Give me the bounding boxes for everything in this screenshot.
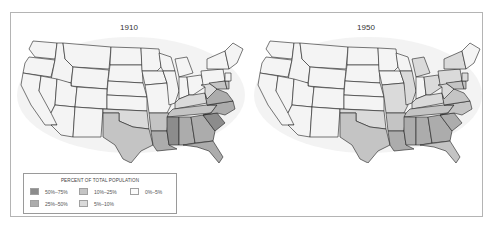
legend-label: 5%–10% (94, 201, 114, 207)
state-mo (145, 83, 171, 113)
state-wy (308, 67, 346, 89)
map-title-1950: 1950 (248, 23, 484, 32)
figure-frame: 1910 1950 Percent of Total Population 50… (10, 12, 483, 217)
legend-label: 25%–50% (45, 201, 68, 207)
state-mo (382, 83, 408, 113)
map-panel-1950: 1950 (248, 13, 484, 163)
legend-label: 0%–5% (145, 189, 162, 195)
legend-label: 10%–25% (94, 189, 117, 195)
state-wa (29, 41, 57, 59)
state-nm (310, 107, 340, 137)
state-ne (344, 81, 384, 97)
state-sd (108, 65, 143, 83)
legend-swatch (79, 200, 88, 207)
state-co (75, 87, 107, 109)
state-ks (344, 95, 384, 111)
state-co (312, 87, 344, 109)
state-fl (183, 141, 223, 163)
state-mn (378, 48, 398, 71)
state-ms (404, 117, 416, 145)
legend-item-10-25: 10%–25% (79, 188, 117, 195)
state-nm (73, 107, 103, 137)
state-sd (345, 65, 380, 83)
map-panel-1910: 1910 (11, 13, 247, 163)
state-mn (141, 48, 161, 71)
state-nj (225, 73, 231, 81)
legend-swatch (30, 200, 39, 207)
legend-swatch (130, 188, 139, 195)
legend-item-5-10: 5%–10% (79, 200, 114, 207)
legend-swatch (30, 188, 39, 195)
state-nd (110, 47, 142, 65)
state-ar (386, 113, 406, 131)
map-title-1910: 1910 (11, 23, 247, 32)
state-ks (107, 95, 147, 111)
legend-swatch (79, 188, 88, 195)
state-ms (167, 117, 179, 145)
state-fl (420, 141, 460, 163)
legend-item-25-50: 25%–50% (30, 200, 68, 207)
legend-title: Percent of Total Population (24, 178, 176, 183)
state-ar (149, 113, 169, 131)
state-nd (347, 47, 379, 65)
us-map-1950 (248, 33, 484, 163)
state-nj (462, 73, 468, 81)
state-wa (266, 41, 294, 59)
state-ne (107, 81, 147, 97)
state-wy (71, 67, 109, 89)
state-ia (379, 71, 404, 85)
legend-item-50-75: 50%–75% (30, 188, 68, 195)
map-legend: Percent of Total Population 50%–75% 10%–… (23, 173, 177, 214)
legend-item-0-5: 0%–5% (130, 188, 162, 195)
state-ia (142, 71, 167, 85)
us-map-1910 (11, 33, 247, 163)
legend-label: 50%–75% (45, 189, 68, 195)
